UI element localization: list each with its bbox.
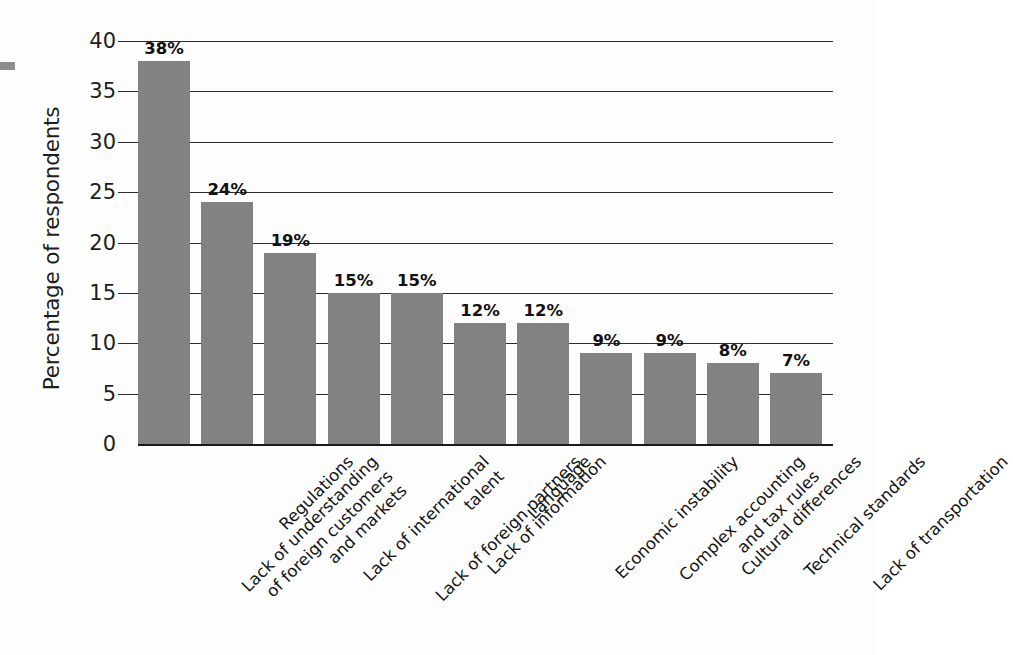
bar-value-label: 9% [570, 331, 642, 350]
x-axis-baseline [138, 444, 833, 446]
y-tick-label: 0 [70, 432, 116, 456]
bar[interactable] [770, 373, 822, 444]
bar[interactable] [517, 323, 569, 444]
y-tick-label: 5 [70, 382, 116, 406]
y-tick-mark [118, 192, 138, 193]
y-tick-mark [118, 142, 138, 143]
gridline [138, 91, 833, 92]
y-tick-label: 35 [70, 79, 116, 103]
bar[interactable] [391, 293, 443, 444]
bar-value-label: 9% [634, 331, 706, 350]
bar-value-label: 7% [760, 351, 832, 370]
y-tick-mark [118, 243, 138, 244]
y-tick-label: 20 [70, 231, 116, 255]
bar[interactable] [707, 363, 759, 444]
y-tick-mark [118, 394, 138, 395]
y-tick-label: 25 [70, 180, 116, 204]
x-axis-category-label[interactable]: Lack of transportation [869, 452, 1012, 595]
y-axis-ticks [0, 0, 138, 655]
gridline [138, 41, 833, 42]
y-tick-mark [118, 91, 138, 92]
bar-value-label: 15% [318, 271, 390, 290]
bar[interactable] [138, 61, 190, 444]
bar[interactable] [454, 323, 506, 444]
y-tick-label: 40 [70, 29, 116, 53]
gridline [138, 142, 833, 143]
bar[interactable] [580, 353, 632, 444]
x-axis-category-label[interactable]: Lack of information [484, 452, 611, 579]
y-tick-label: 30 [70, 130, 116, 154]
bar-value-label: 24% [191, 180, 263, 199]
x-axis-label-line: Lack of transportation [869, 452, 1011, 594]
y-tick-mark [118, 343, 138, 344]
bar-value-label: 15% [381, 271, 453, 290]
y-tick-label: 10 [70, 331, 116, 355]
bar[interactable] [264, 253, 316, 444]
y-tick-label: 15 [70, 281, 116, 305]
y-tick-mark [118, 293, 138, 294]
plot-area: 38%24%19%15%15%12%12%9%9%8%7% [138, 41, 833, 444]
bar[interactable] [328, 293, 380, 444]
bar-value-label: 8% [697, 341, 769, 360]
bar-value-label: 12% [444, 301, 516, 320]
bar[interactable] [201, 202, 253, 444]
bar-value-label: 38% [128, 39, 200, 58]
bar[interactable] [644, 353, 696, 444]
bar-value-label: 12% [507, 301, 579, 320]
bar-value-label: 19% [254, 231, 326, 250]
